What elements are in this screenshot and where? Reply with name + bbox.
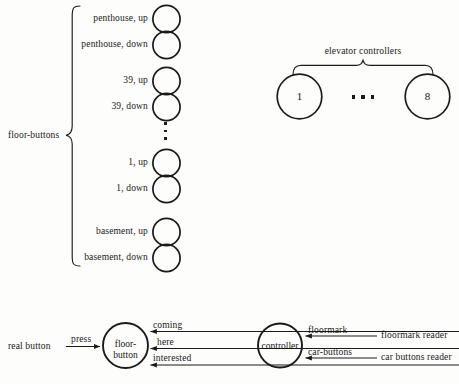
- elevator-controller-label-8: 8: [407, 90, 448, 102]
- floor-button-circle: [153, 31, 180, 58]
- floor-button-label: 1, up: [0, 157, 148, 168]
- floor-button-circle: [153, 175, 180, 202]
- floor-button-label: penthouse, down: [0, 39, 148, 50]
- vertical-ellipsis-icon: [164, 122, 167, 140]
- edge-label-floormark: floormark: [308, 325, 347, 336]
- car-buttons-reader-label: car buttons reader: [381, 352, 452, 363]
- floor-button-label: 39, down: [0, 101, 148, 112]
- floor-button-label: basement, up: [0, 226, 148, 237]
- floor-button-label: 39, up: [0, 75, 148, 86]
- floor-button-circle: [153, 218, 180, 245]
- floor-button-label: penthouse, up: [0, 13, 148, 24]
- edge-label-here: here: [157, 337, 174, 348]
- controller-node-label: controller: [252, 341, 308, 352]
- floor-button-circle: [153, 67, 180, 94]
- floor-button-node-label-line1: floor-: [115, 339, 136, 349]
- floor-button-node-label: floor- button: [101, 339, 150, 360]
- floor-button-circle: [153, 93, 180, 120]
- edge-label-interested: interested: [153, 353, 191, 364]
- elevator-controller-label-1: 1: [279, 90, 320, 102]
- floor-button-label: basement, down: [0, 252, 148, 263]
- edge-label-coming: coming: [153, 320, 182, 331]
- edge-label-press: press: [71, 334, 91, 345]
- elevator-controllers-brace-icon: [293, 60, 433, 74]
- figure-canvas: penthouse, up penthouse, down 39, up 39,…: [0, 0, 459, 384]
- floormark-reader-label: floormark reader: [381, 330, 448, 341]
- floor-button-label: 1, down: [0, 183, 148, 194]
- floor-button-circle: [153, 244, 180, 271]
- horizontal-ellipsis-icon: [352, 95, 374, 99]
- elevator-controllers-group-label: elevator controllers: [283, 46, 443, 57]
- floor-button-circle: [153, 5, 180, 32]
- edge-label-car-buttons: car-buttons: [308, 347, 352, 358]
- floor-button-node-label-line2: button: [113, 350, 137, 360]
- floor-buttons-group-label: floor-buttons: [8, 130, 59, 141]
- real-button-label: real button: [8, 341, 51, 352]
- floor-button-circle: [153, 149, 180, 176]
